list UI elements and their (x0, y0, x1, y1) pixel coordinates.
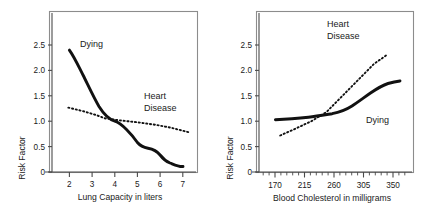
annotation-heart-disease-line2: Disease (327, 31, 360, 41)
x-axis-title: Lung Capacity in liters (78, 192, 163, 202)
annotation-heart-disease-line2: Disease (144, 103, 177, 113)
x-tick-label-6: 6 (158, 180, 163, 189)
x-tick-label-170: 170 (268, 181, 282, 190)
annotation-dying: Dying (80, 39, 103, 49)
blood-cholesterol-chart-panel: 0 0.5 1.0 1.5 2.0 2.5 170 215 260 305 35… (218, 0, 435, 221)
blood-cholesterol-chart-svg: 0 0.5 1.0 1.5 2.0 2.5 170 215 260 305 35… (218, 0, 435, 221)
x-tick-label-215: 215 (298, 181, 312, 190)
y-tick-label-1_5: 1.5 (34, 92, 46, 101)
x-tick-label-5: 5 (135, 180, 140, 189)
y-axis-title: Risk Factor (17, 136, 27, 180)
annotation-heart-disease-line1: Heart (144, 91, 167, 101)
x-axis-title: Blood Cholesterol in milligrams (273, 193, 391, 203)
y-tick-label-0_5: 0.5 (241, 143, 253, 152)
y-tick-label-0: 0 (40, 168, 45, 177)
x-tick-label-260: 260 (327, 181, 341, 190)
y-axis-title: Risk Factor (225, 136, 235, 180)
lung-capacity-chart-svg: 0 0.5 1.0 1.5 2.0 2.5 2 3 4 5 6 7 Lung C… (0, 0, 217, 221)
y-tick-label-2_5: 2.5 (34, 41, 46, 50)
x-tick-label-3: 3 (90, 180, 95, 189)
lung-capacity-chart-panel: 0 0.5 1.0 1.5 2.0 2.5 2 3 4 5 6 7 Lung C… (0, 0, 217, 221)
annotation-dying: Dying (366, 115, 389, 125)
plot-frame (50, 12, 198, 173)
x-tick-label-4: 4 (113, 180, 118, 189)
y-tick-label-0: 0 (247, 168, 252, 177)
y-tick-label-1_0: 1.0 (34, 117, 46, 126)
y-tick-label-1_0: 1.0 (241, 117, 253, 126)
y-tick-label-2_0: 2.0 (241, 66, 253, 75)
y-tick-label-0_5: 0.5 (34, 143, 46, 152)
annotation-heart-disease-line1: Heart (327, 19, 350, 29)
x-tick-label-7: 7 (181, 180, 186, 189)
y-tick-label-1_5: 1.5 (241, 92, 253, 101)
y-tick-label-2_0: 2.0 (34, 66, 46, 75)
y-tick-label-2_5: 2.5 (241, 41, 253, 50)
x-tick-label-2: 2 (67, 180, 72, 189)
x-tick-label-305: 305 (357, 181, 371, 190)
x-tick-label-350: 350 (386, 181, 400, 190)
